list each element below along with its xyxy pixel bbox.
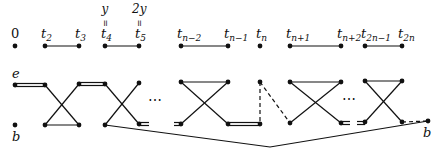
- top-node-label: tn+1: [286, 26, 310, 43]
- top-row: 0t2t3t4y=t52y=tn−2tn−1tntn+1tn+2t2n−1t2n: [11, 2, 415, 48]
- ellipsis-2: ⋯: [342, 91, 356, 107]
- ellipsis-1: ⋯: [148, 92, 162, 108]
- graph-edges: [15, 81, 428, 147]
- top-node: [363, 44, 368, 49]
- top-node-label: t3: [75, 26, 86, 43]
- top-node: [226, 44, 231, 49]
- graph-diagram: 0t2t3t4y=t52y=tn−2tn−1tntn+1tn+2t2n−1t2n: [0, 0, 444, 152]
- equals-sign: =: [100, 20, 110, 28]
- top-node-annotation: 2y: [131, 2, 147, 16]
- top-node-label: t2n−1: [361, 26, 391, 43]
- equals-sign: =: [134, 20, 144, 28]
- top-node: [103, 44, 108, 49]
- top-node-label: t2: [41, 26, 52, 43]
- top-node: [13, 44, 18, 49]
- top-node-label: t2n: [398, 26, 415, 43]
- top-node-label: tn+2: [337, 26, 362, 43]
- top-node: [258, 44, 263, 49]
- top-node-label: t5: [135, 26, 146, 43]
- top-node: [137, 44, 142, 49]
- label-e: e: [12, 66, 20, 81]
- top-node-label: tn−2: [177, 26, 202, 43]
- label-b-left: b: [12, 129, 20, 144]
- top-node: [77, 44, 82, 49]
- top-node: [288, 44, 293, 49]
- top-node-label: tn−1: [224, 26, 248, 43]
- top-node-label: 0: [11, 26, 19, 41]
- top-node-annotation: y: [101, 2, 109, 16]
- top-node: [179, 44, 184, 49]
- top-node: [339, 44, 344, 49]
- top-node: [43, 44, 48, 49]
- label-b-right: b: [423, 125, 431, 140]
- top-node-label: t4: [101, 26, 112, 43]
- top-node: [400, 44, 405, 49]
- top-node-label: tn: [256, 26, 267, 43]
